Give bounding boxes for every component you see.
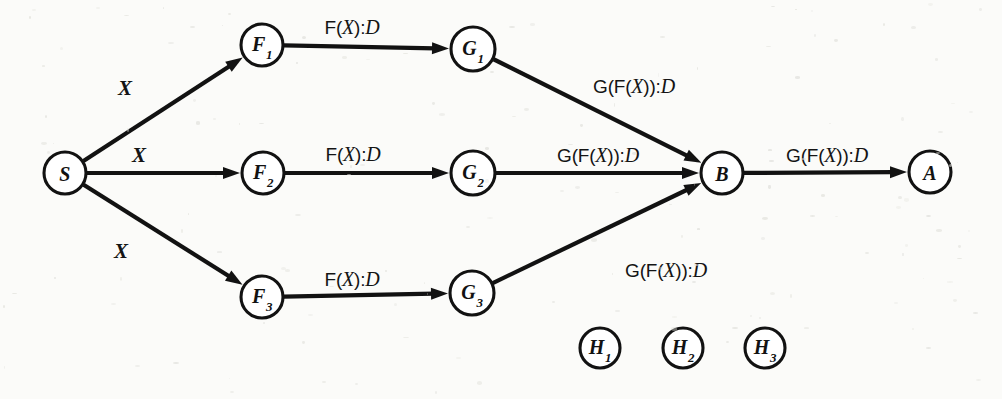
paper-speck xyxy=(795,76,800,78)
paper-speck xyxy=(530,23,535,26)
paper-speck xyxy=(124,15,130,16)
arrowhead-F1-G1 xyxy=(432,42,449,54)
paper-speck xyxy=(834,39,838,42)
paper-speck xyxy=(804,327,809,329)
node-label-h1: H1 xyxy=(589,337,611,361)
paper-speck xyxy=(928,3,933,6)
node-label-h2: H2 xyxy=(672,337,694,361)
paper-speck xyxy=(96,7,101,9)
paper-speck xyxy=(976,379,981,381)
paper-speck xyxy=(403,53,407,55)
paper-speck xyxy=(350,165,352,168)
paper-speck xyxy=(432,102,435,105)
paper-speck xyxy=(439,113,445,115)
paper-speck xyxy=(761,237,766,240)
paper-speck xyxy=(591,238,597,241)
paper-speck xyxy=(120,277,122,280)
node-label-a: A xyxy=(923,163,937,183)
arrowhead-F2-G2 xyxy=(432,167,449,179)
paper-speck xyxy=(53,143,54,144)
node-label-h3: H3 xyxy=(754,337,776,361)
paper-speck xyxy=(694,264,699,266)
paper-speck xyxy=(295,214,301,216)
paper-speck xyxy=(485,179,489,182)
paper-speck xyxy=(768,149,772,150)
edge-label-S-F2: X xyxy=(132,145,146,166)
nodes-layer xyxy=(44,24,951,368)
paper-speck xyxy=(762,217,768,220)
paper-speck xyxy=(902,253,903,256)
paper-speck xyxy=(196,121,201,124)
paper-speck xyxy=(29,16,30,18)
paper-speck xyxy=(54,277,56,279)
node-label-g3: G3 xyxy=(461,282,482,306)
node-label-g2: G2 xyxy=(462,162,483,186)
paper-speck xyxy=(771,6,775,7)
paper-speck xyxy=(296,62,298,64)
edge-G1-B xyxy=(494,59,689,156)
paper-speck xyxy=(135,365,140,368)
paper-speck xyxy=(435,391,437,393)
paper-speck xyxy=(801,158,806,159)
edge-label-G2-B: G(F(X)):D xyxy=(557,145,639,165)
paper-speck xyxy=(355,383,358,385)
paper-speck xyxy=(936,229,942,231)
paper-speck xyxy=(973,312,978,313)
paper-speck xyxy=(926,347,931,349)
paper-speck xyxy=(632,152,637,155)
paper-speck xyxy=(692,281,696,283)
arrowhead-S-F3 xyxy=(225,271,243,285)
node-label-b: B xyxy=(715,164,729,184)
paper-speck xyxy=(285,269,290,272)
paper-speck xyxy=(360,164,365,166)
paper-speck xyxy=(769,160,774,163)
paper-speck xyxy=(938,131,943,133)
paper-speck xyxy=(41,142,47,145)
paper-speck xyxy=(901,117,903,120)
node-label-s: S xyxy=(59,164,70,184)
paper-speck xyxy=(694,183,695,185)
paper-speck xyxy=(466,226,470,228)
paper-speck xyxy=(726,341,729,343)
paper-speck xyxy=(615,310,621,312)
arrowhead-S-F2 xyxy=(223,167,240,179)
arrowhead-G3-B xyxy=(683,183,701,196)
paper-speck xyxy=(697,228,699,229)
paper-speck xyxy=(193,99,196,102)
paper-speck xyxy=(968,230,970,232)
edge-label-F2-G2: F(X):D xyxy=(325,144,380,164)
arrowhead-B-A xyxy=(890,166,907,178)
paper-speck xyxy=(42,65,44,67)
arrowhead-G2-B xyxy=(682,167,699,179)
paper-speck xyxy=(658,73,659,76)
paper-speck xyxy=(302,36,306,39)
edge-label-B-A: G(F(X)):D xyxy=(786,145,868,165)
paper-speck xyxy=(766,46,771,47)
edge-label-G1-B: G(F(X)):D xyxy=(593,76,675,96)
paper-speck xyxy=(213,118,216,119)
edge-S-F1 xyxy=(83,65,231,161)
paper-speck xyxy=(512,116,516,117)
paper-speck xyxy=(660,36,665,38)
paper-speck xyxy=(896,206,900,209)
paper-speck xyxy=(904,198,910,201)
paper-speck xyxy=(768,185,772,188)
edge-S-F3 xyxy=(84,185,231,278)
edge-label-F1-G1: F(X):D xyxy=(324,17,379,37)
edge-F3-G3 xyxy=(284,294,434,297)
graph-svg xyxy=(0,0,1002,399)
arrowhead-G1-B xyxy=(684,150,702,163)
paper-speck xyxy=(302,341,305,344)
node-label-f3: F3 xyxy=(252,286,272,310)
paper-speck xyxy=(168,42,173,44)
paper-speck xyxy=(127,128,129,131)
paper-speck xyxy=(612,273,613,275)
paper-speck xyxy=(957,258,962,260)
arrowhead-F3-G3 xyxy=(431,288,448,300)
paper-speck xyxy=(575,186,580,189)
paper-speck xyxy=(272,150,274,152)
paper-speck xyxy=(281,267,286,270)
edge-label-G3-B: G(F(X)):D xyxy=(625,260,707,280)
paper-speck xyxy=(947,281,953,282)
paper-speck xyxy=(163,7,164,9)
